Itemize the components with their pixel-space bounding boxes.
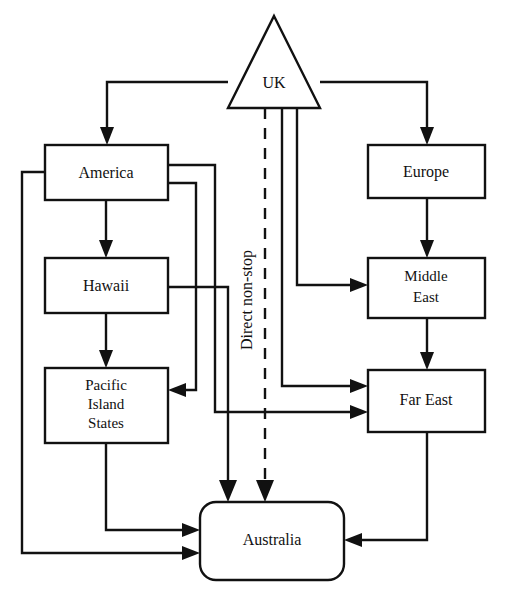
edge-europe-middle-east — [420, 198, 434, 258]
arrowhead-icon — [256, 480, 274, 502]
edge-far-east-australia — [344, 432, 427, 547]
arrowhead-icon — [99, 350, 113, 368]
edge-label-direct-non-stop: Direct non-stop — [238, 250, 256, 350]
arrowhead-icon — [99, 240, 113, 258]
node-middle-east-label-line1: Middle — [404, 268, 448, 284]
edge-uk-america — [100, 82, 228, 145]
arrowhead-icon — [344, 533, 362, 547]
direct-non-stop-label: Direct non-stop — [238, 250, 256, 350]
arrowhead-icon — [420, 127, 434, 145]
node-australia-label: Australia — [243, 531, 302, 548]
arrowhead-icon — [420, 240, 434, 258]
node-hawaii[interactable]: Hawaii — [45, 258, 168, 313]
edge-america-far-east — [168, 165, 368, 419]
node-pacific-label-line2: Island — [88, 396, 125, 412]
edge-uk-middle-east — [297, 108, 368, 292]
node-america[interactable]: America — [45, 145, 168, 200]
node-uk[interactable]: UK — [228, 16, 320, 108]
middle-east-box-shape — [368, 258, 485, 318]
arrowhead-icon — [182, 546, 200, 560]
edge-uk-europe — [320, 82, 434, 145]
node-europe[interactable]: Europe — [368, 145, 485, 198]
edge-america-hawaii — [99, 200, 113, 258]
arrowhead-icon — [350, 405, 368, 419]
arrowhead-icon — [219, 480, 237, 502]
node-middle-east[interactable]: Middle East — [368, 258, 485, 318]
edge-uk-australia-direct — [256, 108, 274, 502]
arrowhead-icon — [182, 523, 200, 537]
node-europe-label: Europe — [403, 163, 449, 181]
route-diagram: UK America Hawaii Pacific Island States … — [0, 0, 510, 608]
edge-uk-far-east — [282, 108, 368, 393]
node-far-east[interactable]: Far East — [368, 370, 485, 432]
edge-hawaii-pacific — [99, 313, 113, 368]
uk-triangle-shape — [228, 16, 320, 108]
node-hawaii-label: Hawaii — [83, 277, 130, 294]
edge-hawaii-australia — [168, 287, 237, 502]
arrowhead-icon — [350, 379, 368, 393]
edge-pacific-australia — [106, 443, 200, 537]
node-pacific-island-states[interactable]: Pacific Island States — [45, 368, 168, 443]
arrowhead-icon — [350, 278, 368, 292]
node-america-label: America — [78, 164, 133, 181]
node-uk-label: UK — [262, 74, 286, 91]
arrowhead-icon — [168, 383, 186, 397]
node-far-east-label: Far East — [400, 391, 453, 408]
edge-middle-east-far-east — [420, 318, 434, 370]
edge-america-australia — [22, 172, 200, 560]
arrowhead-icon — [100, 127, 114, 145]
node-pacific-label-line1: Pacific — [85, 377, 127, 393]
node-middle-east-label-line2: East — [413, 289, 440, 305]
node-australia[interactable]: Australia — [200, 502, 344, 580]
node-pacific-label-line3: States — [88, 415, 124, 431]
arrowhead-icon — [420, 352, 434, 370]
edge-america-pacific — [168, 183, 196, 397]
